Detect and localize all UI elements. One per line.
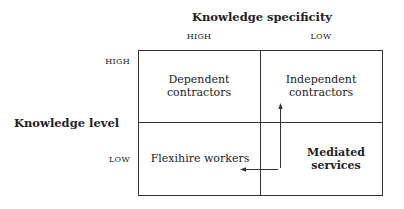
quadrant-grid xyxy=(0,0,404,209)
cell-line-1: Dependent xyxy=(138,73,260,86)
cell-line-1: Independent xyxy=(260,73,382,86)
cell-line-2: contractors xyxy=(138,86,260,99)
cell-mediated-services: Mediated services xyxy=(290,146,382,172)
cell-dependent-contractors: Dependent contractors xyxy=(138,73,260,99)
cell-flexihire-workers: Flexihire workers xyxy=(146,152,254,165)
cell-independent-contractors: Independent contractors xyxy=(260,73,382,99)
arrow-up-icon xyxy=(278,103,282,168)
cell-line-1: Mediated xyxy=(290,146,382,159)
cell-line-2: contractors xyxy=(260,86,382,99)
cell-line-2: services xyxy=(290,159,382,172)
arrow-left-icon xyxy=(240,167,278,171)
cell-line-1: Flexihire workers xyxy=(146,152,254,165)
